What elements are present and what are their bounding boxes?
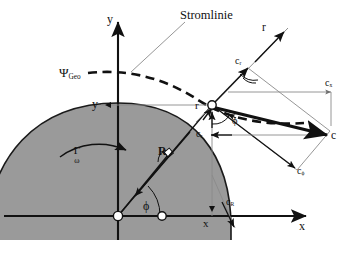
phi-label-field-point: ϕ: [232, 116, 238, 127]
velocity-cR-label: cR: [226, 197, 234, 208]
focus-vertex: [158, 212, 166, 220]
r-label-field-point: r: [195, 100, 199, 111]
origin-vertex: [113, 211, 122, 220]
velocity-cphi-label: cϕ: [297, 166, 304, 177]
velocity-cr-upper-arrow: [212, 68, 248, 105]
axis-label-x-local: x: [203, 218, 209, 229]
streamline-leader-line: [131, 22, 185, 72]
axis-label-x-global: x: [299, 220, 305, 232]
velocity-c-resultant-label: c: [331, 130, 336, 142]
axis-label-y-local: y: [92, 98, 98, 110]
streamline-label: Stromlinie: [180, 9, 233, 22]
velocity-cx-label: cx: [325, 78, 332, 89]
field-point-vertex: [208, 101, 216, 109]
velocity-cr-upper-label: cr: [235, 56, 241, 67]
stream-function-label: ΨGeo: [59, 66, 81, 81]
phi-label-origin: ϕ: [143, 200, 149, 212]
r-axis-label-top: r: [262, 22, 266, 34]
radius-R-label: R: [158, 146, 166, 158]
phi-angle-arc-field-point: [212, 116, 229, 124]
r-axis-arrow: [255, 32, 284, 62]
circulation-over-omega-label: Γ ω: [64, 145, 90, 165]
velocity-c-resultant-arrow: [212, 107, 327, 135]
axis-label-y-global: y: [107, 13, 113, 25]
cylinder-body: [0, 103, 231, 250]
diagram-vector-layer: [0, 0, 359, 272]
velocity-cr-lower-label: cr: [196, 129, 202, 140]
parallelogram-side-c: [297, 131, 330, 170]
velocity-cphi-arrow: [212, 105, 295, 168]
figure-canvas: Stromlinie ΨGeo y x y x Γ ω R ϕ ϕ r r cr…: [0, 0, 359, 272]
